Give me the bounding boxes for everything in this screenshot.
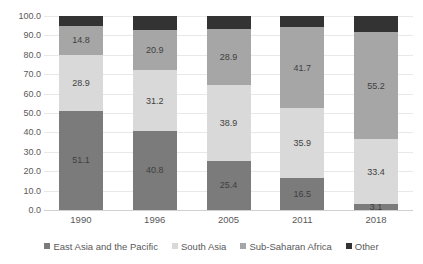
legend-swatch-icon (172, 243, 178, 249)
y-axis-tick-label: 40.0 (1, 127, 41, 137)
bar-segment-value-label: 38.9 (220, 118, 238, 128)
bar-segment[interactable] (207, 16, 251, 29)
y-axis-tick-label: 0.0 (1, 205, 41, 215)
stacked-bar-chart: 100.090.080.070.060.050.040.030.020.010.… (0, 0, 423, 264)
legend-item-label: Sub-Saharan Africa (249, 241, 331, 252)
legend-item[interactable]: East Asia and the Pacific (44, 241, 158, 252)
bar-segment-value-label: 28.9 (72, 78, 90, 88)
chart-legend: East Asia and the PacificSouth AsiaSub-S… (0, 238, 423, 254)
bar-segment[interactable]: 28.9 (207, 29, 251, 85)
legend-swatch-icon (44, 243, 50, 249)
y-axis-tick-label: 50.0 (1, 108, 41, 118)
bar-group-1996[interactable]: 40.831.220.9 (133, 16, 177, 210)
legend-item-label: Other (355, 241, 379, 252)
bar-group-2018[interactable]: 3.133.455.2 (354, 16, 398, 210)
y-axis-tick-label: 100.0 (1, 11, 41, 21)
bar-segment[interactable]: 41.7 (280, 27, 324, 108)
bar-segment-value-label: 40.8 (146, 165, 164, 175)
bar-segment-value-label: 33.4 (367, 167, 385, 177)
x-axis-tick-label: 1990 (51, 214, 111, 226)
bar-segment[interactable]: 25.4 (207, 161, 251, 210)
y-axis-tick-label: 10.0 (1, 186, 41, 196)
y-axis-tick-label: 60.0 (1, 89, 41, 99)
x-axis-tick-label: 2018 (346, 214, 406, 226)
bar-segment[interactable] (59, 16, 103, 26)
legend-item[interactable]: Sub-Saharan Africa (240, 241, 331, 252)
bar-segment-value-label: 31.2 (146, 96, 164, 106)
bar-segment[interactable] (133, 16, 177, 30)
bar-segment[interactable]: 40.8 (133, 131, 177, 210)
bar-group-2005[interactable]: 25.438.928.9 (207, 16, 251, 210)
bar-segment-value-label: 28.9 (220, 52, 238, 62)
plot-area: 51.128.914.840.831.220.925.438.928.916.5… (44, 16, 413, 210)
bar-segment[interactable]: 33.4 (354, 139, 398, 204)
bar-segment[interactable] (280, 16, 324, 27)
bar-segment-value-label: 25.4 (220, 180, 238, 190)
gridline (44, 210, 413, 211)
bar-segment[interactable]: 31.2 (133, 70, 177, 131)
y-axis-tick-label: 80.0 (1, 50, 41, 60)
bar-segment[interactable]: 55.2 (354, 32, 398, 139)
bar-group-1990[interactable]: 51.128.914.8 (59, 16, 103, 210)
y-axis-tick-label: 70.0 (1, 69, 41, 79)
bar-segment[interactable]: 14.8 (59, 26, 103, 55)
bar-segment[interactable]: 28.9 (59, 55, 103, 111)
bar-segment[interactable]: 16.5 (280, 178, 324, 210)
y-axis-tick-label: 30.0 (1, 147, 41, 157)
bar-segment-value-label: 35.9 (294, 138, 312, 148)
bar-segment-value-label: 16.5 (294, 189, 312, 199)
bar-segment[interactable]: 3.1 (354, 204, 398, 210)
legend-item-label: East Asia and the Pacific (53, 241, 158, 252)
bar-segment[interactable]: 51.1 (59, 111, 103, 210)
legend-swatch-icon (240, 243, 246, 249)
y-axis-tick-label: 90.0 (1, 30, 41, 40)
legend-item[interactable]: Other (346, 241, 379, 252)
x-axis-tick-label: 2005 (199, 214, 259, 226)
bar-segment-value-label: 55.2 (367, 81, 385, 91)
bar-segment-value-label: 41.7 (294, 63, 312, 73)
legend-item[interactable]: South Asia (172, 241, 226, 252)
x-axis-tick-label: 2011 (272, 214, 332, 226)
bar-segment-value-label: 51.1 (72, 155, 90, 165)
bar-segment[interactable]: 20.9 (133, 30, 177, 71)
legend-swatch-icon (346, 243, 352, 249)
bar-segment[interactable]: 35.9 (280, 108, 324, 178)
legend-item-label: South Asia (181, 241, 226, 252)
y-axis-tick-labels: 100.090.080.070.060.050.040.030.020.010.… (0, 16, 41, 210)
x-axis-tick-labels: 19901996200520112018 (44, 214, 413, 230)
bar-segment-value-label: 20.9 (146, 45, 164, 55)
y-axis-tick-label: 20.0 (1, 166, 41, 176)
bar-segment-value-label: 14.8 (72, 35, 90, 45)
bar-group-2011[interactable]: 16.535.941.7 (280, 16, 324, 210)
x-axis-tick-label: 1996 (125, 214, 185, 226)
bar-segment[interactable]: 38.9 (207, 85, 251, 160)
bar-segment[interactable] (354, 16, 398, 32)
